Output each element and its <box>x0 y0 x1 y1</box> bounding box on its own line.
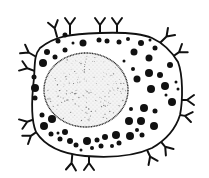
cell-diagram: Cell with surface receptors <box>0 0 209 178</box>
granule <box>33 96 38 101</box>
granule <box>95 138 100 143</box>
granule <box>165 94 168 97</box>
granule <box>150 122 158 130</box>
granule <box>125 117 133 125</box>
granule <box>140 104 148 112</box>
receptor-y-icon <box>112 18 122 34</box>
cell-illustration <box>0 0 209 178</box>
granule <box>175 81 178 84</box>
granule <box>49 132 54 137</box>
granule <box>140 133 145 138</box>
granule <box>80 149 83 152</box>
granule <box>48 115 56 123</box>
granule <box>112 131 120 139</box>
granule <box>72 42 75 45</box>
granule <box>56 39 61 44</box>
granule <box>146 55 153 62</box>
granule <box>67 138 73 144</box>
granule <box>149 39 152 42</box>
granule <box>123 60 126 63</box>
granule <box>167 62 173 68</box>
granule <box>177 88 180 91</box>
granule <box>58 137 63 142</box>
granule <box>63 48 68 53</box>
granule <box>117 141 122 146</box>
granule <box>102 134 108 140</box>
granule <box>117 40 122 45</box>
granule <box>137 117 145 125</box>
granule <box>99 144 104 149</box>
granule <box>105 39 110 44</box>
receptor-y-icon <box>95 18 105 34</box>
receptor-y-icon <box>66 154 77 171</box>
granule <box>129 107 133 111</box>
granule <box>110 144 114 148</box>
granule <box>57 132 60 135</box>
granule <box>40 113 45 118</box>
granule <box>39 59 47 67</box>
granule <box>97 38 102 43</box>
granule <box>153 109 158 114</box>
granule <box>83 137 91 145</box>
granule <box>134 76 141 83</box>
granule <box>153 46 158 51</box>
granule <box>74 143 79 148</box>
granule <box>168 98 176 106</box>
granule <box>126 37 130 41</box>
granule <box>131 49 138 56</box>
granule <box>62 129 68 135</box>
granule <box>131 67 135 71</box>
granule <box>157 72 163 78</box>
granule <box>80 40 87 47</box>
granule <box>31 84 39 92</box>
receptor-y-icon <box>48 20 62 38</box>
granule <box>44 49 50 55</box>
granule <box>40 122 48 130</box>
granule <box>138 40 144 46</box>
granule <box>53 55 58 60</box>
granule <box>126 132 134 140</box>
granule <box>63 33 68 38</box>
granule <box>161 82 169 90</box>
granule <box>90 146 94 150</box>
granule <box>135 128 139 132</box>
granule <box>145 69 153 77</box>
granule <box>147 85 155 93</box>
receptor-y-icon <box>65 18 75 34</box>
granule <box>32 75 37 80</box>
